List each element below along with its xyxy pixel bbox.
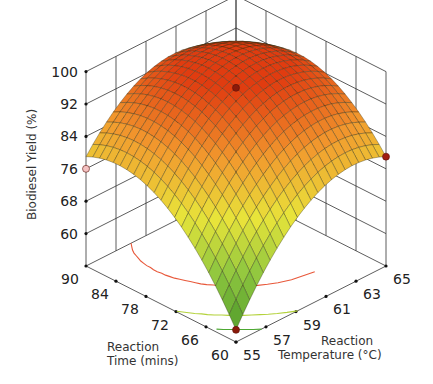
y-axis-label-line1: Reaction bbox=[321, 334, 373, 348]
time-tick-label: 84 bbox=[91, 286, 109, 302]
temperature-tick-label: 61 bbox=[333, 301, 351, 317]
temperature-tick-label: 55 bbox=[243, 347, 261, 363]
time-tick-label: 90 bbox=[61, 271, 79, 287]
z-tick-label: 100 bbox=[51, 64, 78, 80]
temperature-tick-label: 63 bbox=[363, 286, 381, 302]
time-tick-label: 72 bbox=[151, 317, 169, 333]
surface-plot: 6068768492100606672788490555759616365 Bi… bbox=[0, 0, 433, 384]
time-tick-label: 78 bbox=[121, 301, 139, 317]
z-tick-label: 92 bbox=[60, 96, 78, 112]
surface-plot-canvas: 6068768492100606672788490555759616365 Bi… bbox=[0, 0, 433, 384]
z-tick-label: 68 bbox=[60, 193, 78, 209]
z-tick-label: 76 bbox=[60, 161, 78, 177]
z-axis-label: Biodiesel Yield (%) bbox=[25, 109, 39, 220]
design-point bbox=[83, 165, 90, 172]
x-axis-label-line1: Reaction bbox=[107, 340, 159, 354]
y-axis-label-line2: Temperature (°C) bbox=[277, 348, 382, 362]
z-tick-label: 84 bbox=[60, 128, 78, 144]
temperature-tick-label: 59 bbox=[303, 317, 321, 333]
temperature-tick-label: 57 bbox=[273, 332, 291, 348]
time-tick-label: 66 bbox=[181, 332, 199, 348]
design-point bbox=[233, 326, 240, 333]
design-point bbox=[233, 84, 240, 91]
design-point bbox=[383, 153, 390, 160]
temperature-tick-label: 65 bbox=[393, 271, 411, 287]
time-tick-label: 60 bbox=[211, 347, 229, 363]
z-tick-label: 60 bbox=[60, 226, 78, 242]
x-axis-label-line2: Time (mins) bbox=[106, 354, 178, 368]
